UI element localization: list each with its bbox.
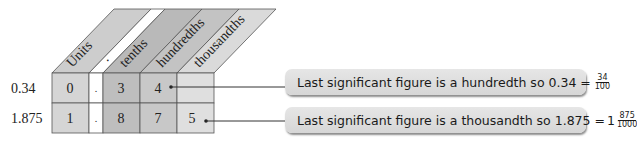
column-headers: Units . tenths hundredths thousandths: [52, 9, 276, 73]
cell-hundredths: 7: [155, 111, 162, 126]
cell-decimal-point: .: [95, 83, 98, 94]
row-label-1: 1.875: [11, 111, 43, 126]
callout-hundredth: Last significant figure is a hundredth s…: [285, 69, 586, 95]
cell-units: 0: [67, 81, 74, 96]
fraction: 875 1000: [617, 112, 637, 129]
fraction-denominator: 100: [595, 83, 610, 91]
cell-hundredths: 4: [155, 81, 162, 96]
fraction: 34 100: [595, 74, 610, 91]
callout-thousandth: Last significant figure is a thousandth …: [285, 107, 586, 133]
cell-units: 1: [67, 111, 74, 126]
cell-tenths: 8: [118, 111, 125, 126]
cell-tenths: 3: [118, 81, 125, 96]
callout-text: Last significant figure is a thousandth …: [297, 113, 605, 128]
callout-text: Last significant figure is a hundredth s…: [297, 75, 591, 90]
row-label-0: 0.34: [11, 81, 36, 96]
cell-thousandths: 5: [189, 111, 196, 126]
cell-decimal-point: .: [95, 113, 98, 124]
callout-whole: 1: [607, 113, 615, 128]
fraction-denominator: 1000: [617, 121, 637, 129]
